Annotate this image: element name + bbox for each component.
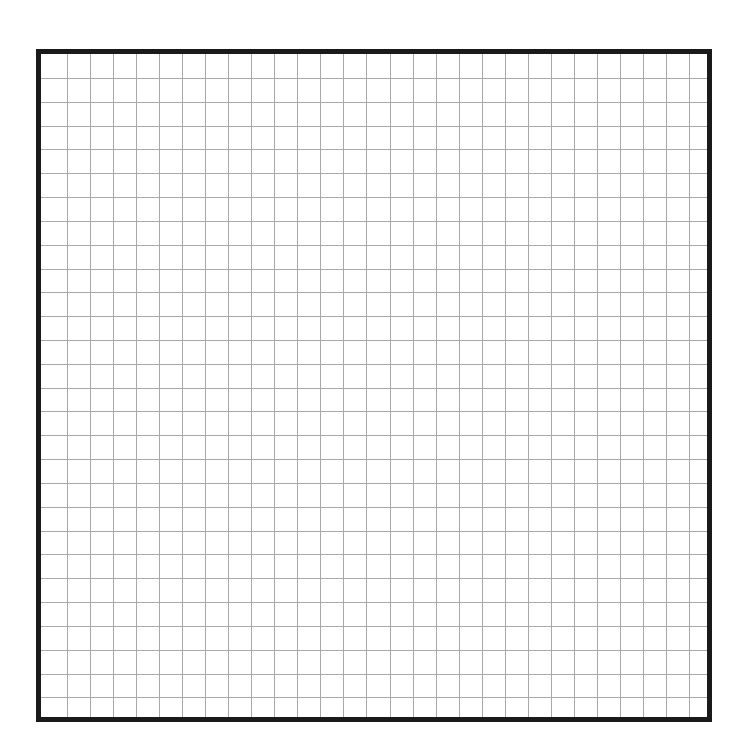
grid-lines — [41, 54, 707, 717]
grid-worksheet — [36, 49, 712, 722]
